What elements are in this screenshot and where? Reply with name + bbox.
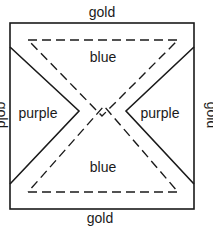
label-left-purple: purple	[19, 105, 58, 121]
label-left-gold: gold	[0, 102, 10, 128]
label-top-blue: blue	[90, 49, 117, 65]
flag-diagram: gold gold blue blue purple purple gold g…	[0, 0, 213, 227]
label-top-gold: gold	[89, 4, 115, 20]
label-bottom-blue: blue	[90, 159, 117, 175]
label-right-purple: purple	[141, 105, 180, 121]
label-right-gold: gold	[204, 102, 213, 128]
label-bottom-gold: gold	[87, 210, 113, 226]
